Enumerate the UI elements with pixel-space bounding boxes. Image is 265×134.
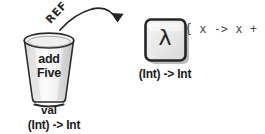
cup-value-label-line-1: add [27,52,71,66]
val-keyword-label: val [20,105,78,117]
cup-rim-inner [28,36,70,47]
cup-type-signature: (Int) -> Int [6,119,102,131]
arrow-curve [60,8,117,30]
arrow-head [112,13,124,23]
lambda-glyph: λ [145,27,185,49]
cup-value-label: add Five [27,52,71,80]
ref-arrow [60,8,124,30]
diagram-canvas: add Five val (Int) -> Int REF λ (Int) ->… [0,0,265,134]
cup-value-label-line-2: Five [27,66,71,80]
lambda-expression: { x -> x + 5 } [185,24,265,36]
lambda-type-signature: (Int) -> Int [117,68,213,80]
